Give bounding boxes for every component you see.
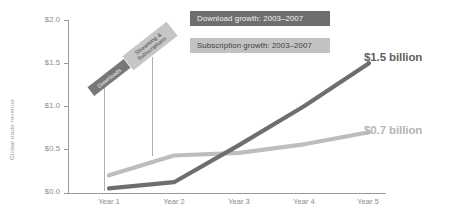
callout-leader-downloads (104, 88, 105, 191)
annotation-download-value: $1.5 billion (364, 51, 422, 63)
callout-leader-streaming (152, 57, 153, 156)
chart-container: Global trade revenue $2.0 $1.5 $1.0 $0.5… (0, 0, 464, 222)
data-line-download (109, 63, 369, 188)
legend-item-subscription[interactable]: Subscription growth: 2003–2007 (190, 38, 330, 53)
data-line-subscription (109, 132, 369, 175)
annotation-subscription-value: $0.7 billion (364, 124, 422, 136)
plot-area (0, 0, 464, 222)
legend-item-download[interactable]: Download growth: 2003–2007 (190, 11, 330, 26)
